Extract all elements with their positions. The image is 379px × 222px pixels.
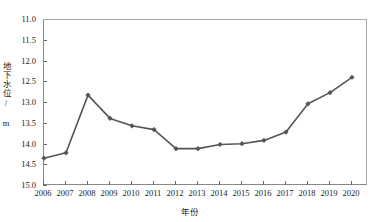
- x-tick-label: 2019: [321, 188, 338, 198]
- x-tick-label: 2014: [211, 188, 228, 198]
- y-tick-label: 11.0: [8, 14, 36, 24]
- x-tick-mark: [351, 181, 352, 185]
- y-tick-label: 13.0: [8, 97, 36, 107]
- x-tick-label: 2011: [145, 188, 162, 198]
- x-tick-mark: [153, 181, 154, 185]
- x-tick-mark: [131, 181, 132, 185]
- x-tick-label: 2009: [101, 188, 118, 198]
- x-tick-label: 2017: [277, 188, 294, 198]
- data-point-marker: [63, 150, 68, 155]
- y-tick-label: 14.0: [8, 139, 36, 149]
- x-tick-label: 2006: [35, 188, 52, 198]
- y-tick-label: 11.5: [8, 35, 36, 45]
- y-tick-label: 15.0: [8, 180, 36, 190]
- x-tick-mark: [241, 181, 242, 185]
- x-tick-mark: [43, 181, 44, 185]
- x-tick-label: 2012: [167, 188, 184, 198]
- data-point-marker: [239, 141, 244, 146]
- data-point-marker: [195, 146, 200, 151]
- x-tick-mark: [263, 181, 264, 185]
- data-point-marker: [41, 156, 46, 161]
- y-tick-label: 14.5: [8, 159, 36, 169]
- plot-area: [43, 19, 367, 185]
- y-tick-label: 12.0: [8, 56, 36, 66]
- data-point-marker: [261, 138, 266, 143]
- x-tick-mark: [65, 181, 66, 185]
- x-tick-mark: [219, 181, 220, 185]
- x-tick-mark: [197, 181, 198, 185]
- data-point-marker: [129, 123, 134, 128]
- x-tick-label: 2018: [299, 188, 316, 198]
- x-axis-title: 年份: [0, 205, 379, 217]
- x-tick-mark: [285, 181, 286, 185]
- x-tick-mark: [175, 181, 176, 185]
- x-tick-label: 2008: [79, 188, 96, 198]
- x-tick-label: 2010: [123, 188, 140, 198]
- x-tick-label: 2007: [57, 188, 74, 198]
- data-point-marker: [217, 142, 222, 147]
- x-tick-mark: [87, 181, 88, 185]
- x-tick-label: 2013: [189, 188, 206, 198]
- x-tick-label: 2020: [343, 188, 360, 198]
- series-line: [44, 20, 368, 186]
- x-tick-label: 2015: [233, 188, 250, 198]
- groundwater-level-line-chart: 地下水位/ m 11.011.512.012.513.013.514.014.5…: [0, 0, 379, 222]
- x-tick-mark: [109, 181, 110, 185]
- x-tick-label: 2016: [255, 188, 272, 198]
- x-tick-mark: [307, 181, 308, 185]
- y-tick-label: 13.5: [8, 118, 36, 128]
- x-tick-mark: [329, 181, 330, 185]
- y-tick-label: 12.5: [8, 76, 36, 86]
